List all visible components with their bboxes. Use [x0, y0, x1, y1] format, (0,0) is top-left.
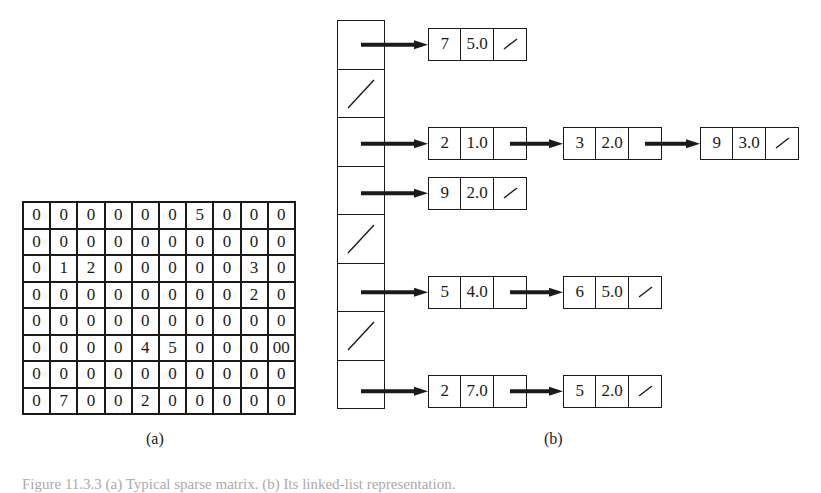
matrix-cell: 0 — [132, 361, 159, 388]
matrix-cell: 0 — [241, 229, 268, 256]
matrix-cell: 0 — [23, 229, 50, 256]
matrix-cell: 0 — [213, 361, 240, 388]
array-cell — [337, 20, 385, 69]
matrix-cell: 7 — [50, 388, 77, 415]
matrix-cell: 0 — [132, 282, 159, 309]
matrix-cell: 0 — [105, 308, 132, 335]
node-next-pointer — [766, 128, 798, 159]
matrix-cell: 1 — [50, 255, 77, 282]
array-cell — [337, 166, 385, 215]
matrix-cell: 0 — [77, 335, 104, 362]
node-value: 4.0 — [461, 277, 493, 308]
matrix-cell: 4 — [132, 335, 159, 362]
matrix-cell: 5 — [186, 202, 213, 229]
node-value: 2.0 — [596, 376, 628, 407]
matrix-cell: 0 — [105, 282, 132, 309]
matrix-cell: 0 — [77, 229, 104, 256]
matrix-cell: 0 — [77, 361, 104, 388]
array-cell — [337, 214, 385, 263]
matrix-cell: 0 — [23, 255, 50, 282]
node-column-index: 7 — [429, 29, 461, 60]
matrix-cell: 0 — [132, 202, 159, 229]
matrix-cell: 0 — [132, 255, 159, 282]
list-node: 27.0 — [428, 375, 527, 408]
node-next-pointer — [629, 128, 661, 159]
matrix-cell: 0 — [213, 388, 240, 415]
matrix-cell: 0 — [132, 308, 159, 335]
matrix-row: 0000000000 — [23, 361, 295, 388]
matrix-cell: 0 — [159, 202, 186, 229]
matrix-cell: 0 — [241, 388, 268, 415]
array-cell — [337, 311, 385, 360]
null-slash-icon — [338, 215, 384, 262]
matrix-cell: 0 — [268, 229, 295, 256]
list-node: 93.0 — [700, 127, 799, 160]
null-slash-icon — [338, 70, 384, 117]
node-column-index: 9 — [701, 128, 733, 159]
matrix-cell: 0 — [213, 229, 240, 256]
null-slash-icon — [494, 178, 525, 208]
list-node: 75.0 — [428, 28, 527, 61]
matrix-cell: 0 — [213, 255, 240, 282]
matrix-cell: 0 — [50, 361, 77, 388]
list-node: 32.0 — [563, 127, 662, 160]
matrix-cell: 0 — [77, 388, 104, 415]
matrix-cell: 5 — [159, 335, 186, 362]
node-column-index: 9 — [429, 178, 461, 209]
matrix-cell: 0 — [186, 388, 213, 415]
matrix-cell: 0 — [105, 335, 132, 362]
matrix-cell: 0 — [23, 308, 50, 335]
list-node: 21.0 — [428, 127, 527, 160]
matrix-cell: 0 — [23, 388, 50, 415]
matrix-cell: 0 — [268, 361, 295, 388]
matrix-cell: 0 — [268, 255, 295, 282]
node-column-index: 2 — [429, 376, 461, 407]
null-slash-icon — [338, 312, 384, 359]
matrix-cell: 0 — [213, 202, 240, 229]
node-next-pointer — [494, 128, 526, 159]
node-next-pointer — [494, 277, 526, 308]
matrix-cell: 2 — [132, 388, 159, 415]
matrix-cell: 0 — [159, 388, 186, 415]
matrix-cell: 0 — [105, 202, 132, 229]
matrix-cell: 0 — [186, 361, 213, 388]
matrix-cell: 0 — [241, 335, 268, 362]
matrix-cell: 0 — [241, 308, 268, 335]
matrix-cell: 0 — [268, 388, 295, 415]
array-cell — [337, 360, 385, 410]
node-column-index: 5 — [564, 376, 596, 407]
list-node: 92.0 — [428, 177, 527, 210]
matrix-cell: 0 — [105, 255, 132, 282]
node-value: 1.0 — [461, 128, 493, 159]
node-next-pointer — [494, 376, 526, 407]
matrix-cell: 0 — [268, 308, 295, 335]
matrix-row: 0000000020 — [23, 282, 295, 309]
matrix-row: 0700200000 — [23, 388, 295, 415]
matrix-cell: 0 — [50, 282, 77, 309]
matrix-cell: 0 — [50, 335, 77, 362]
node-column-index: 6 — [564, 277, 596, 308]
node-value: 7.0 — [461, 376, 493, 407]
matrix-cell: 0 — [105, 361, 132, 388]
matrix-row: 0000005000 — [23, 202, 295, 229]
node-column-index: 3 — [564, 128, 596, 159]
node-next-pointer — [629, 277, 661, 308]
node-value: 3.0 — [733, 128, 765, 159]
matrix-cell: 0 — [159, 282, 186, 309]
matrix-cell: 2 — [241, 282, 268, 309]
list-node: 65.0 — [563, 276, 662, 309]
matrix-cell: 0 — [23, 361, 50, 388]
matrix-cell: 0 — [213, 308, 240, 335]
array-cell — [337, 117, 385, 166]
node-value: 2.0 — [461, 178, 493, 209]
matrix-cell: 0 — [186, 335, 213, 362]
matrix-cell: 0 — [213, 282, 240, 309]
matrix-cell: 0 — [23, 282, 50, 309]
null-slash-icon — [629, 277, 660, 307]
matrix-cell: 0 — [77, 308, 104, 335]
matrix-cell: 0 — [159, 361, 186, 388]
node-next-pointer — [494, 178, 526, 209]
node-column-index: 5 — [429, 277, 461, 308]
matrix-cell: 0 — [50, 202, 77, 229]
matrix-cell: 0 — [268, 282, 295, 309]
